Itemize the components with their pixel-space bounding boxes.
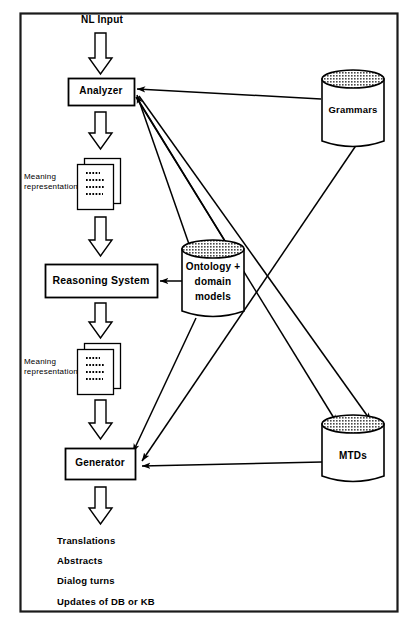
output-item-dialog-turns: Dialog turns xyxy=(57,575,115,586)
output-item-abstracts: Abstracts xyxy=(57,555,103,566)
grammars-label: Grammars xyxy=(322,104,384,115)
document-stack-mr2 xyxy=(78,344,121,395)
output-item-translations: Translations xyxy=(57,535,115,546)
figure-canvas: NL Input Analyzer Meaning representation… xyxy=(0,0,418,631)
mtds-label: MTDs xyxy=(322,450,384,461)
cylinder-mtds xyxy=(322,415,384,482)
analyzer-label: Analyzer xyxy=(68,85,134,96)
ontology-label-line2: domain xyxy=(182,276,244,287)
reasoning-system-label: Reasoning System xyxy=(45,274,157,286)
output-item-updates: Updates of DB or KB xyxy=(57,596,155,607)
generator-label: Generator xyxy=(65,457,135,468)
nl-input-label: NL Input xyxy=(72,14,132,25)
meaning-representation-label-1: Meaning representation xyxy=(24,172,76,191)
ontology-label-line3: models xyxy=(182,291,244,302)
ontology-label-line1: Ontology + xyxy=(182,261,244,272)
document-stack-mr1 xyxy=(78,159,121,210)
meaning-representation-label-2: Meaning representation xyxy=(24,357,76,376)
